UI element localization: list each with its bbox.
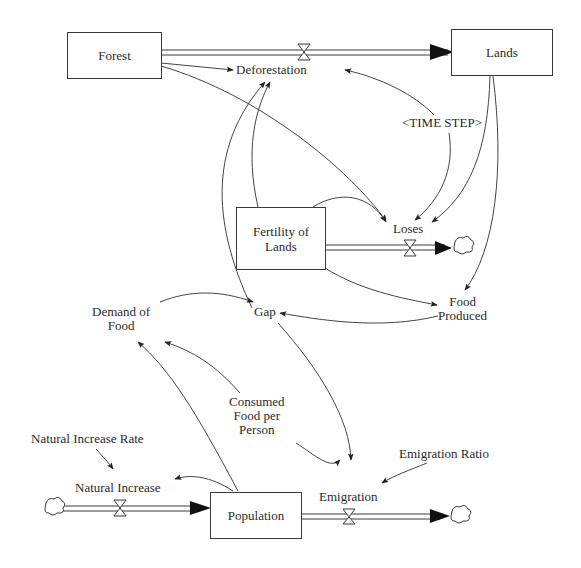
consumed-line-3: Person: [229, 423, 285, 437]
stock-population-label: Population: [228, 508, 284, 523]
variable-gap[interactable]: Gap: [254, 305, 276, 319]
cloud-sink-icon: [451, 505, 471, 523]
flow-pipe-emigration: [301, 505, 471, 524]
stock-fertility-of-lands[interactable]: Fertility of Lands: [236, 207, 326, 270]
variable-natural-increase-rate[interactable]: Natural Increase Rate: [31, 432, 144, 446]
stock-lands-label: Lands: [486, 45, 518, 60]
variable-food-produced[interactable]: Food Produced: [438, 295, 487, 323]
stock-forest[interactable]: Forest: [67, 32, 162, 79]
cloud-source-icon: [45, 497, 65, 515]
flow-natural-increase-label[interactable]: Natural Increase: [75, 481, 161, 495]
flow-loses-label[interactable]: Loses: [393, 222, 423, 236]
stock-population[interactable]: Population: [210, 492, 302, 539]
demand-line-1: Demand of: [92, 305, 150, 319]
food-produced-line-1: Food: [438, 295, 487, 309]
variable-consumed-food-per-person[interactable]: Consumed Food per Person: [229, 395, 285, 437]
consumed-line-2: Food per: [229, 409, 285, 423]
flow-pipe-loses: [326, 236, 474, 256]
demand-line-2: Food: [92, 319, 150, 333]
flow-pipe-deforestation: [161, 44, 454, 60]
flow-deforestation-label[interactable]: Deforestation: [236, 63, 307, 77]
flow-pipe-natural-increase: [45, 497, 211, 516]
stock-lands[interactable]: Lands: [451, 29, 553, 76]
consumed-line-1: Consumed: [229, 395, 285, 409]
stock-fertility-label-1: Fertility of: [253, 224, 309, 239]
flow-emigration-label[interactable]: Emigration: [319, 490, 378, 504]
cloud-sink-icon: [454, 236, 474, 254]
variable-emigration-ratio[interactable]: Emigration Ratio: [399, 447, 489, 461]
stock-forest-label: Forest: [98, 48, 131, 63]
variable-time-step[interactable]: <TIME STEP>: [402, 116, 482, 130]
stock-fertility-label-2: Lands: [265, 239, 297, 254]
food-produced-line-2: Produced: [438, 309, 487, 323]
variable-demand-of-food[interactable]: Demand of Food: [92, 305, 150, 333]
